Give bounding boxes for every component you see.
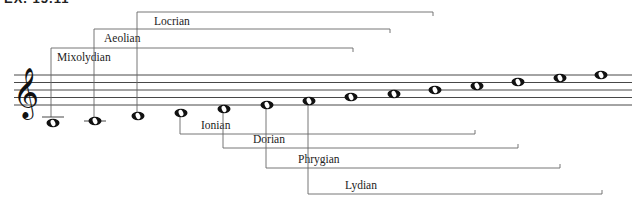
mode-label: Aeolian (104, 32, 141, 44)
whole-note-icon (345, 93, 358, 101)
whole-note-icon (471, 82, 484, 90)
mode-label: Mixolydian (57, 51, 111, 64)
mode-label: Phrygian (298, 153, 340, 166)
whole-note-icon (218, 105, 231, 113)
bracket-aeolian: Aeolian (94, 29, 390, 117)
whole-note-icon (175, 109, 188, 117)
mode-brackets: MixolydianAeolianLocrianIonianDorianPhry… (51, 12, 602, 194)
mode-label: Dorian (253, 133, 285, 145)
bracket-phrygian: Phrygian (266, 108, 560, 168)
whole-note-icon (388, 90, 401, 98)
whole-note-icon (303, 97, 316, 105)
svg-text:𝄞: 𝄞 (13, 66, 39, 120)
staff (14, 75, 632, 105)
mode-label: Ionian (201, 119, 231, 131)
whole-note-icon (84, 117, 106, 125)
bracket-lydian: Lydian (308, 104, 602, 194)
whole-note-icon (42, 117, 64, 127)
treble-clef-icon: 𝄞 (13, 66, 39, 120)
whole-note-icon (132, 112, 145, 120)
whole-note-icon (512, 78, 525, 86)
bracket-dorian: Dorian (223, 112, 518, 148)
bracket-ionian: Ionian (180, 116, 475, 134)
mode-label: Locrian (154, 15, 190, 27)
bracket-locrian: Locrian (137, 12, 433, 112)
whole-note-icon (429, 86, 442, 94)
notes (42, 71, 608, 127)
whole-note-icon (554, 74, 567, 82)
modes-diagram: 𝄞 MixolydianAeolianLocrianIonianDorianPh… (0, 0, 637, 202)
mode-label: Lydian (345, 179, 377, 192)
whole-note-icon (261, 101, 274, 109)
whole-note-icon (595, 71, 608, 79)
